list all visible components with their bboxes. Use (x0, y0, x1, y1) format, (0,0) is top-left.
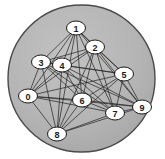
node-label-0: 0 (25, 92, 30, 102)
graph-node-7[interactable]: 7 (106, 106, 125, 120)
node-label-6: 6 (79, 96, 84, 106)
node-label-2: 2 (92, 43, 97, 53)
node-label-3: 3 (38, 58, 43, 68)
graph-node-1[interactable]: 1 (67, 21, 86, 35)
graph-node-2[interactable]: 2 (86, 40, 105, 54)
node-label-1: 1 (73, 24, 78, 34)
node-label-8: 8 (54, 130, 59, 140)
graph-node-5[interactable]: 5 (115, 67, 134, 81)
graph-node-6[interactable]: 6 (73, 93, 92, 107)
graph-node-4[interactable]: 4 (53, 58, 72, 72)
node-label-5: 5 (121, 70, 126, 80)
graph-node-0[interactable]: 0 (19, 89, 38, 103)
graph-node-8[interactable]: 8 (48, 127, 67, 141)
node-label-7: 7 (112, 109, 117, 119)
graph-node-9[interactable]: 9 (133, 100, 152, 114)
node-label-4: 4 (59, 61, 64, 71)
graph-diagram: 0123456789 (0, 0, 165, 159)
node-label-9: 9 (139, 103, 144, 113)
graph-node-3[interactable]: 3 (32, 55, 51, 69)
figure-canvas: 0123456789 (0, 0, 165, 159)
